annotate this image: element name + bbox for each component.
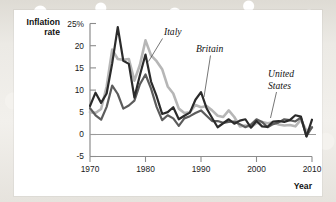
britain-label: Britain <box>196 43 223 54</box>
x-tick-1990: 1990 <box>192 164 211 174</box>
x-tick-1980: 1980 <box>136 164 155 174</box>
united-states-leader-line <box>271 92 277 118</box>
united-states-label-line1: United <box>268 68 294 79</box>
y-tick-20: 20 <box>75 41 85 51</box>
italy-label: Italy <box>163 26 182 37</box>
britain-leader-line <box>204 56 211 98</box>
y-tick-10: 10 <box>75 85 85 95</box>
y-axis-title-line1: Inflation <box>27 17 60 27</box>
inflation-rate-line-chart: Inflation rate 25% 20 15 10 5 0 -5 1970 … <box>0 0 336 202</box>
y-axis-title-line2: rate <box>44 27 60 37</box>
y-tick-25: 25% <box>67 19 84 29</box>
italy-leader-line <box>149 39 163 62</box>
y-tick-5: 5 <box>79 107 84 117</box>
y-tick-neg5: -5 <box>77 151 85 161</box>
chart-svg: Inflation rate 25% 20 15 10 5 0 -5 1970 … <box>0 0 336 202</box>
y-tick-15: 15 <box>75 63 85 73</box>
y-tick-0: 0 <box>79 129 84 139</box>
x-axis-title: Year <box>294 181 313 191</box>
x-tick-2010: 2010 <box>303 164 322 174</box>
x-tick-2000: 2000 <box>247 164 266 174</box>
x-tick-1970: 1970 <box>81 164 100 174</box>
united-states-label-line2: States <box>268 80 291 91</box>
